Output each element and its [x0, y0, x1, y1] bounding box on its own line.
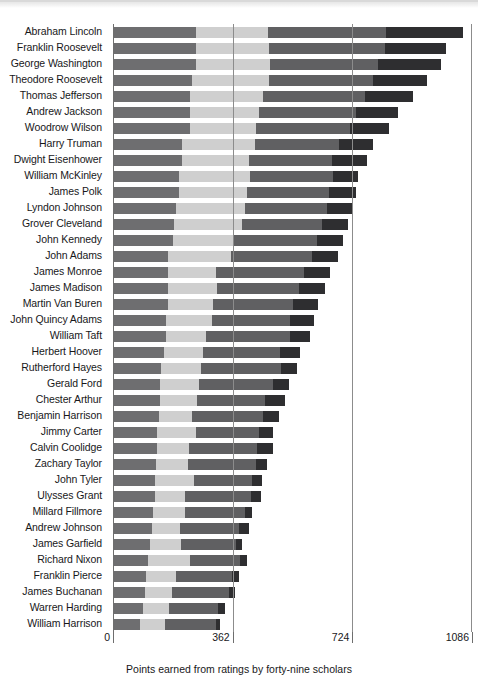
plot-area-frame	[113, 24, 472, 632]
bar-category-label: James Buchanan	[22, 584, 102, 600]
bar-category-label: Grover Cleveland	[22, 216, 102, 232]
x-tick-mark	[113, 632, 114, 643]
bar-category-label: Richard Nixon	[37, 552, 102, 568]
x-tick-label: 1086	[409, 631, 469, 643]
bar-category-label: Thomas Jefferson	[20, 88, 102, 104]
gridline	[233, 24, 234, 632]
bar-category-label: Dwight Eisenhower	[14, 152, 102, 168]
bar-category-label: John Quincy Adams	[10, 312, 102, 328]
bar-category-label: William Harrison	[27, 616, 102, 632]
bar-category-label: Woodrow Wilson	[25, 120, 102, 136]
bar-category-label: Martin Van Buren	[23, 296, 102, 312]
bar-category-label: Abraham Lincoln	[25, 24, 102, 40]
gridline	[352, 24, 353, 632]
bar-category-label: John Adams	[45, 248, 102, 264]
x-tick-mark	[472, 632, 473, 643]
bar-category-label: Chester Arthur	[36, 392, 102, 408]
bar-category-label: Ulysses Grant	[37, 488, 102, 504]
bar-category-label: Benjamin Harrison	[17, 408, 102, 424]
bar-category-label: James Garfield	[33, 536, 102, 552]
chart-caption: Points earned from ratings by forty-nine…	[0, 663, 478, 675]
bar-category-label: Lyndon Johnson	[27, 200, 102, 216]
bar-category-label: Franklin Pierce	[33, 568, 102, 584]
bar-category-label: Warren Harding	[30, 600, 102, 616]
bar-category-label: George Washington	[11, 56, 102, 72]
bar-category-label: Theodore Roosevelt	[9, 72, 102, 88]
bar-category-label: Andrew Johnson	[25, 520, 102, 536]
bar-category-label: Franklin Roosevelt	[17, 40, 102, 56]
bar-category-label: James Monroe	[34, 264, 102, 280]
x-tick-mark	[352, 632, 353, 643]
bar-category-label: Gerald Ford	[47, 376, 102, 392]
bar-category-label: William McKinley	[24, 168, 102, 184]
bar-category-label: Zachary Taylor	[35, 456, 102, 472]
x-tick-label: 362	[170, 631, 230, 643]
bar-category-label: John Tyler	[55, 472, 102, 488]
x-tick-label: 0	[50, 631, 110, 643]
bar-category-label: Millard Fillmore	[32, 504, 102, 520]
bar-category-label: John Kennedy	[36, 232, 102, 248]
bar-category-label: William Taft	[50, 328, 102, 344]
bar-category-label: Calvin Coolidge	[30, 440, 102, 456]
bar-category-label: Jimmy Carter	[41, 424, 102, 440]
presidential-ratings-stacked-bar-chart: Abraham LincolnFranklin RooseveltGeorge …	[0, 0, 478, 693]
bar-category-label: Herbert Hoover	[32, 344, 102, 360]
bar-category-label: Rutherford Hayes	[21, 360, 102, 376]
x-tick-mark	[233, 632, 234, 643]
x-tick-label: 724	[289, 631, 349, 643]
bar-category-label: Harry Truman	[39, 136, 102, 152]
bar-category-label: James Polk	[49, 184, 102, 200]
bar-category-label: James Madison	[30, 280, 102, 296]
bar-category-label: Andrew Jackson	[26, 104, 102, 120]
